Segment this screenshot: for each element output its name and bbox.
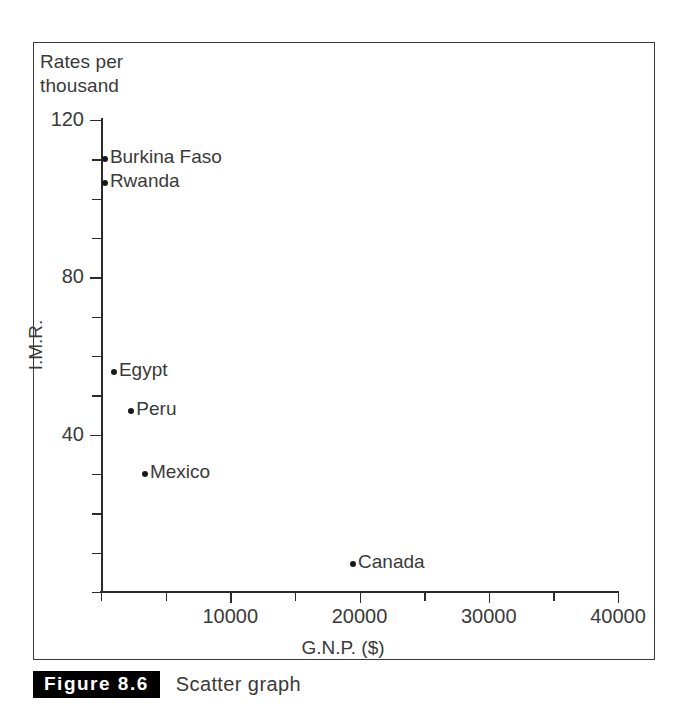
- figure-caption-text: Scatter graph: [176, 673, 301, 696]
- y-axis-tick: [92, 395, 101, 396]
- y-axis-tick: [92, 356, 101, 357]
- x-axis-tick: [101, 592, 102, 601]
- x-axis-tick-label: 20000: [332, 605, 388, 628]
- x-axis-tick-label: 10000: [202, 605, 258, 628]
- data-point-label: Mexico: [150, 461, 210, 483]
- x-axis-tick: [166, 592, 167, 601]
- data-point-label: Egypt: [119, 359, 168, 381]
- y-axis-tick: [90, 120, 101, 121]
- y-axis-tick: [92, 159, 101, 160]
- y-axis-tick: [92, 199, 101, 200]
- y-axis-tick: [90, 435, 101, 436]
- y-axis-tick: [92, 317, 101, 318]
- data-point: [142, 471, 148, 477]
- y-axis-tick: [90, 277, 101, 278]
- x-axis-tick: [553, 592, 554, 601]
- data-point: [350, 561, 356, 567]
- y-axis-tick-label: 40: [38, 423, 84, 446]
- x-axis-tick-label: 40000: [590, 605, 646, 628]
- figure-number-badge: Figure 8.6: [33, 671, 160, 698]
- x-axis-tick: [618, 592, 619, 603]
- y-axis-line: [101, 118, 103, 593]
- rates-per-thousand-note: Rates per thousand: [40, 50, 123, 98]
- x-axis-tick: [424, 592, 425, 601]
- data-point-label: Rwanda: [110, 170, 180, 192]
- data-point-label: Peru: [136, 398, 176, 420]
- data-point: [128, 408, 134, 414]
- y-axis-tick: [92, 553, 101, 554]
- figure-container: Rates per thousand 4080120 1000020000300…: [0, 0, 686, 715]
- y-axis-tick-label: 80: [38, 265, 84, 288]
- data-point: [111, 369, 117, 375]
- x-axis-tick-label: 30000: [461, 605, 517, 628]
- figure-caption: Figure 8.6 Scatter graph: [33, 670, 301, 698]
- y-axis-tick: [92, 513, 101, 514]
- x-axis-tick: [360, 592, 361, 603]
- data-point: [102, 156, 108, 162]
- y-axis-title: I.M.R.: [25, 320, 47, 371]
- y-axis-tick: [92, 592, 101, 593]
- x-axis-title: G.N.P. ($): [0, 637, 686, 659]
- y-axis-tick-label: 120: [38, 108, 84, 131]
- y-axis-tick: [92, 238, 101, 239]
- data-point: [102, 180, 108, 186]
- x-axis-tick: [489, 592, 490, 603]
- data-point-label: Burkina Faso: [110, 146, 222, 168]
- data-point-label: Canada: [358, 551, 425, 573]
- y-axis-tick: [92, 474, 101, 475]
- x-axis-tick: [230, 592, 231, 603]
- x-axis-tick: [295, 592, 296, 601]
- figure-frame: [33, 42, 655, 660]
